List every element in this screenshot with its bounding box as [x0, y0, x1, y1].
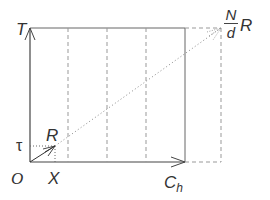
label-r: R — [46, 127, 58, 144]
label-ch-main: C — [164, 173, 176, 192]
label-t: T — [16, 21, 26, 38]
label-x: X — [48, 170, 59, 187]
r-arrowhead-icon — [43, 146, 55, 156]
label-tau: τ — [16, 138, 22, 154]
label-ndr-r: R — [240, 17, 252, 34]
label-ch: Ch — [164, 174, 183, 194]
label-n: N — [224, 7, 238, 22]
label-nd-fraction: N d — [224, 7, 238, 40]
ndr-arrowhead-icon — [207, 28, 221, 40]
dotted-ndr-vector — [55, 28, 221, 146]
label-d: d — [224, 25, 238, 40]
label-ch-sub: h — [176, 181, 183, 195]
label-origin: O — [11, 170, 23, 187]
